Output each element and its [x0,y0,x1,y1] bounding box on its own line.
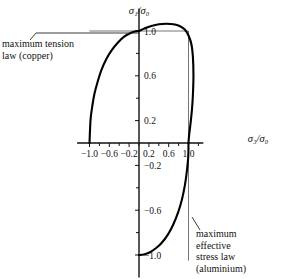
curve-maximum-effective-stress-law [139,143,189,255]
maximum-effective-stress-annotation: maximum effective stress law (aluminium) [196,228,292,274]
yield-criterion-chart: −1.0−0.6−0.20.20.61.0 1.00.60.2−0.2−0.6−… [0,0,295,279]
y-tick-label: −1.0 [144,251,161,261]
y-axis-label: σ₁/σ₀ [129,5,150,16]
y-tick-label: 0.2 [144,116,156,126]
x-axis-label: σ₃/σ₀ [248,133,269,144]
leader-lines [30,33,200,230]
x-axis-tick-labels: −1.0−0.6−0.20.20.61.0 [81,149,195,159]
x-tick-label: −1.0 [81,149,98,159]
y-tick-label: 0.6 [144,71,156,81]
x-tick-label: −0.2 [120,149,137,159]
maximum-tension-annotation: maximum tension law (copper) [2,38,110,61]
y-tick-label: −0.2 [144,161,161,171]
y-tick-label: −0.6 [144,206,161,216]
x-tick-label: 0.6 [163,149,175,159]
x-tick-label: −0.6 [101,149,118,159]
x-tick-label: 0.2 [143,149,155,159]
